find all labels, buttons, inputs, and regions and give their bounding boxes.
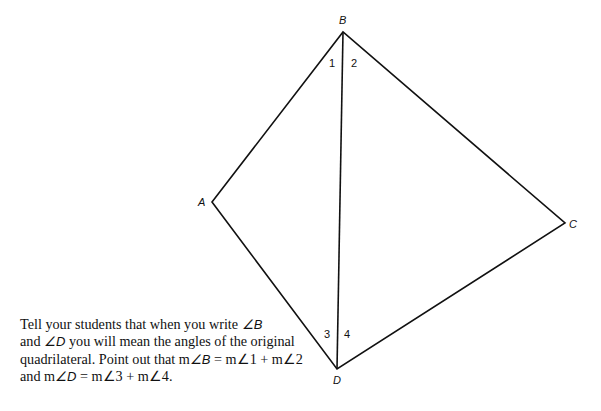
angle-b-symbol: ∠B	[190, 352, 211, 367]
vertex-label-d: D	[333, 374, 341, 386]
caption-text: = m∠1 + m∠2	[211, 351, 303, 367]
caption-text: and m	[20, 368, 55, 384]
angle-d-symbol: ∠D	[44, 334, 65, 349]
angle-b-symbol: ∠B	[242, 317, 263, 332]
caption-text: = m∠3 + m∠4.	[76, 368, 172, 384]
angle-label-2: 2	[351, 57, 357, 69]
vertex-label-a: A	[197, 196, 205, 208]
vertex-label-c: C	[569, 218, 577, 230]
angle-label-1: 1	[329, 57, 335, 69]
caption-line-1: Tell your students that when you write ∠…	[20, 316, 320, 333]
caption-text: quadrilateral. Point out that m	[20, 351, 190, 367]
instruction-caption: Tell your students that when you write ∠…	[20, 316, 320, 385]
diagonal-bd	[337, 32, 343, 369]
caption-text: Tell your students that when you write	[20, 316, 242, 332]
caption-line-3: quadrilateral. Point out that m∠B = m∠1 …	[20, 351, 320, 368]
vertex-label-b: B	[339, 14, 346, 26]
caption-text: and	[20, 333, 44, 349]
caption-line-4: and m∠D = m∠3 + m∠4.	[20, 368, 320, 385]
caption-text: you will mean the angles of the original	[65, 333, 294, 349]
angle-label-4: 4	[344, 328, 350, 340]
angle-label-3: 3	[324, 328, 330, 340]
caption-line-2: and ∠D you will mean the angles of the o…	[20, 333, 320, 350]
angle-d-symbol: ∠D	[55, 369, 76, 384]
